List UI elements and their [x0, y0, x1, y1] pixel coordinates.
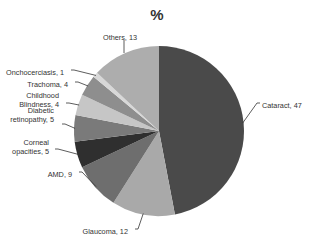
data-label-cataract: Cataract, 47	[262, 101, 302, 110]
data-label-glaucoma: Glaucoma, 12	[83, 227, 128, 236]
leader-line	[135, 214, 143, 229]
leader-line	[75, 82, 88, 86]
data-label-others: Others, 13	[103, 33, 137, 42]
data-label-childhood-blindness: ChildhoodBlindness, 4	[19, 91, 59, 109]
data-label-corneal-opacities: Cornealopacities, 5	[12, 138, 49, 156]
leader-line	[71, 70, 96, 75]
data-label-diabetic-retinopathy: Diabeticretinopathy, 5	[10, 106, 54, 124]
leader-line	[243, 103, 260, 123]
pie-slice-cataract	[159, 46, 244, 214]
leader-line	[62, 124, 75, 128]
data-label-trachoma: Trachoma, 4	[27, 80, 68, 89]
leader-line	[66, 103, 79, 105]
leader-line	[55, 149, 78, 154]
data-label-onchocerciasis: Onchocerciasis, 1	[6, 68, 64, 77]
pie-chart: Cataract, 47Glaucoma, 12AMD, 9Cornealopa…	[0, 0, 314, 241]
data-label-amd: AMD, 9	[48, 170, 72, 179]
